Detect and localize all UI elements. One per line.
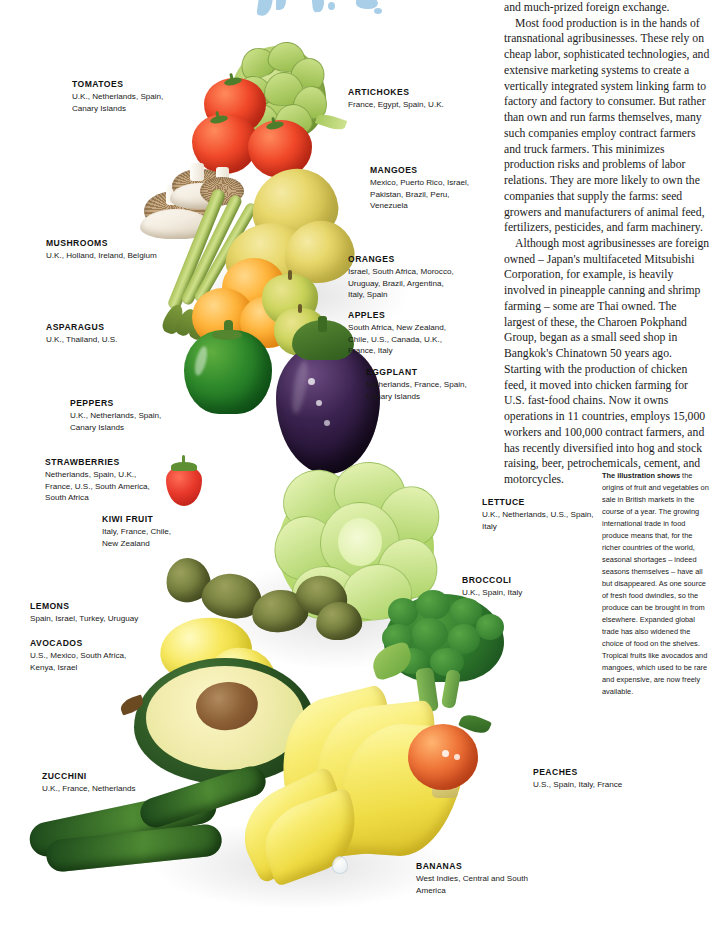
label-title-artichokes: ARTICHOKES xyxy=(348,88,508,97)
label-oranges: ORANGES Israel, South Africa, Morocco, U… xyxy=(348,255,508,300)
label-title-kiwi-fruit: KIWI FRUIT xyxy=(102,515,252,524)
label-avocados: AVOCADOS U.S., Mexico, South Africa, Ken… xyxy=(30,639,190,673)
label-zucchini: ZUCCHINI U.K., France, Netherlands xyxy=(42,772,212,795)
label-title-eggplant: EGGPLANT xyxy=(366,368,521,377)
label-sources-lettuce: U.K., Netherlands, U.S., Spain, Italy xyxy=(482,509,602,532)
label-title-apples: APPLES xyxy=(348,311,508,320)
label-title-broccoli: BROCCOLI xyxy=(462,576,602,585)
label-title-mushrooms: MUSHROOMS xyxy=(46,239,226,248)
label-sources-kiwi-fruit: Italy, France, Chile, New Zealand xyxy=(102,526,252,549)
label-eggplant: EGGPLANT Netherlands, France, Spain, Can… xyxy=(366,368,521,402)
label-strawberries: STRAWBERRIES Netherlands, Spain, U.K., F… xyxy=(45,458,205,503)
label-sources-peppers: U.K., Netherlands, Spain, Canary Islands xyxy=(70,410,220,433)
label-kiwi-fruit: KIWI FRUIT Italy, France, Chile, New Zea… xyxy=(102,515,252,549)
label-mushrooms: MUSHROOMS U.K., Holland, Ireland, Belgiu… xyxy=(46,239,226,262)
label-asparagus: ASPARAGUS U.K., Thailand, U.S. xyxy=(46,323,206,346)
label-sources-bananas: West Indies, Central and South America xyxy=(416,873,586,896)
label-sources-apples: South Africa, New Zealand, Chile, U.S., … xyxy=(348,322,508,356)
label-peppers: PEPPERS U.K., Netherlands, Spain, Canary… xyxy=(70,399,220,433)
label-title-peppers: PEPPERS xyxy=(70,399,220,408)
caption-text: the origins of fruit and vegetables on s… xyxy=(602,471,709,696)
label-apples: APPLES South Africa, New Zealand, Chile,… xyxy=(348,311,508,356)
label-tomatoes: TOMATOES U.K., Netherlands, Spain, Canar… xyxy=(72,80,232,114)
label-peaches: PEACHES U.S., Spain, Italy, France xyxy=(533,768,693,791)
label-artichokes: ARTICHOKES France, Egypt, Spain, U.K. xyxy=(348,88,508,111)
label-bananas: BANANAS West Indies, Central and South A… xyxy=(416,862,586,896)
label-sources-mangoes: Mexico, Puerto Rico, Israel, Pakistan, B… xyxy=(370,177,520,211)
label-sources-eggplant: Netherlands, France, Spain, Canary Islan… xyxy=(366,379,521,402)
body-paragraph-1: and much-prized foreign exchange. xyxy=(504,0,710,16)
label-sources-avocados: U.S., Mexico, South Africa, Kenya, Israe… xyxy=(30,650,190,673)
label-lettuce: LETTUCE U.K., Netherlands, U.S., Spain, … xyxy=(482,498,602,532)
label-title-bananas: BANANAS xyxy=(416,862,586,871)
label-title-strawberries: STRAWBERRIES xyxy=(45,458,205,467)
label-sources-mushrooms: U.K., Holland, Ireland, Belgium xyxy=(46,250,226,261)
label-sources-peaches: U.S., Spain, Italy, France xyxy=(533,779,693,790)
peach-illustration xyxy=(402,714,492,800)
label-title-tomatoes: TOMATOES xyxy=(72,80,232,89)
article-body-column: and much-prized foreign exchange. Most f… xyxy=(504,0,710,488)
label-sources-broccoli: U.K., Spain, Italy xyxy=(462,587,602,598)
label-title-asparagus: ASPARAGUS xyxy=(46,323,206,332)
label-broccoli: BROCCOLI U.K., Spain, Italy xyxy=(462,576,602,599)
label-title-lemons: LEMONS xyxy=(30,602,200,611)
body-paragraph-2: Most food production is in the hands of … xyxy=(504,16,710,236)
label-sources-lemons: Spain, Israel, Turkey, Uruguay xyxy=(30,613,200,624)
label-title-lettuce: LETTUCE xyxy=(482,498,602,507)
label-lemons: LEMONS Spain, Israel, Turkey, Uruguay xyxy=(30,602,200,625)
label-sources-asparagus: U.K., Thailand, U.S. xyxy=(46,334,206,345)
label-sources-tomatoes: U.K., Netherlands, Spain, Canary Islands xyxy=(72,91,232,114)
illustrated-page: TOMATOES U.K., Netherlands, Spain, Canar… xyxy=(0,0,728,932)
label-sources-strawberries: Netherlands, Spain, U.K., France, U.S., … xyxy=(45,469,205,503)
label-title-mangoes: MANGOES xyxy=(370,166,520,175)
label-sources-oranges: Israel, South Africa, Morocco, Uruguay, … xyxy=(348,266,508,300)
label-sources-zucchini: U.K., France, Netherlands xyxy=(42,783,212,794)
water-drop-icon xyxy=(332,856,348,874)
illustration-caption: The illustration shows the origins of fr… xyxy=(602,470,712,698)
label-title-zucchini: ZUCCHINI xyxy=(42,772,212,781)
label-title-peaches: PEACHES xyxy=(533,768,693,777)
label-title-avocados: AVOCADOS xyxy=(30,639,190,648)
label-sources-artichokes: France, Egypt, Spain, U.K. xyxy=(348,99,508,110)
caption-lead-in: The illustration shows xyxy=(602,471,680,480)
body-paragraph-3: Although most agribusinesses are foreign… xyxy=(504,236,710,488)
label-mangoes: MANGOES Mexico, Puerto Rico, Israel, Pak… xyxy=(370,166,520,211)
label-title-oranges: ORANGES xyxy=(348,255,508,264)
